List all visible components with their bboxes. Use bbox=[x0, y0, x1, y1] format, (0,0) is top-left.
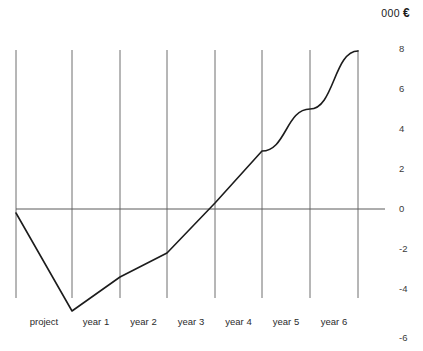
data-series-line bbox=[16, 51, 358, 311]
x-tick-year-2: year 2 bbox=[130, 316, 156, 327]
y-tick-8: 8 bbox=[399, 43, 423, 54]
plot-area bbox=[0, 0, 423, 351]
y-tick-6: 6 bbox=[399, 83, 423, 94]
vertical-gridlines bbox=[16, 50, 358, 298]
y-tick-neg6: -6 bbox=[399, 332, 423, 343]
x-tick-year-6: year 6 bbox=[321, 316, 347, 327]
y-tick-4: 4 bbox=[399, 123, 423, 134]
x-tick-year-3: year 3 bbox=[178, 316, 204, 327]
chart-container: 000€ 86420-2-4-6 projectyear 1year 2year… bbox=[0, 0, 423, 351]
y-tick-0: 0 bbox=[399, 203, 423, 214]
x-tick-year-5: year 5 bbox=[273, 316, 299, 327]
y-tick-neg4: -4 bbox=[399, 283, 423, 294]
y-tick-2: 2 bbox=[399, 163, 423, 174]
x-tick-year-4: year 4 bbox=[225, 316, 251, 327]
x-tick-year-1: year 1 bbox=[83, 316, 109, 327]
y-tick-neg2: -2 bbox=[399, 243, 423, 254]
x-tick-project: project bbox=[30, 316, 59, 327]
